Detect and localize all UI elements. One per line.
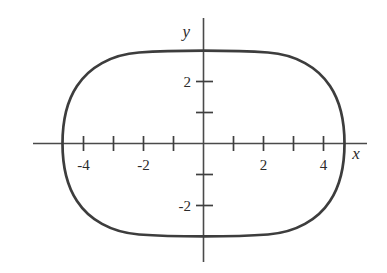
y-tick-label-minus2: -2 bbox=[179, 198, 192, 214]
y-tick-label-2: 2 bbox=[184, 74, 192, 90]
coordinate-plot: -4 -2 2 4 2 -2 y x bbox=[0, 0, 387, 273]
y-axis-label: y bbox=[180, 22, 190, 41]
figure-canvas: -4 -2 2 4 2 -2 y x bbox=[0, 0, 387, 273]
x-tick-label-2: 2 bbox=[260, 157, 268, 173]
x-tick-label-minus4: -4 bbox=[77, 157, 90, 173]
plot-background bbox=[0, 0, 387, 273]
x-tick-label-4: 4 bbox=[320, 157, 328, 173]
x-axis-label: x bbox=[351, 144, 360, 163]
x-tick-label-minus2: -2 bbox=[137, 157, 150, 173]
